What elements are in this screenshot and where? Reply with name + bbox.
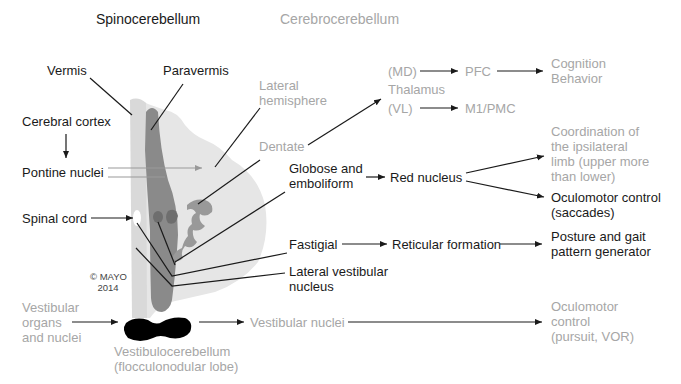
- label-line: (saccades): [551, 205, 661, 220]
- label-line: Cognition: [551, 56, 606, 71]
- label-line: control: [551, 314, 634, 329]
- label-line: Vestibular: [22, 300, 81, 315]
- copyright-line-2: 2014: [90, 282, 126, 293]
- label-posture-gait: Posture and gait pattern generator: [551, 229, 651, 259]
- label-spinal-cord: Spinal cord: [22, 211, 87, 226]
- vermis-shape: [130, 99, 147, 318]
- label-line: Vestibulocerebellum: [114, 344, 238, 359]
- header-spinocerebellum: Spinocerebellum: [96, 12, 200, 27]
- label-cerebral-cortex: Cerebral cortex: [22, 114, 111, 129]
- label-red-nucleus: Red nucleus: [390, 170, 462, 185]
- label-line: Oculomotor: [551, 299, 634, 314]
- label-vestibulocerebellum: Vestibulocerebellum (flocculonodular lob…: [114, 344, 238, 374]
- fastigial-nucleus-shape: [153, 211, 163, 223]
- label-paravermis: Paravermis: [163, 63, 229, 78]
- label-line: the ipsilateral: [551, 139, 649, 154]
- label-thalamus: Thalamus: [388, 82, 445, 97]
- label-vl: (VL): [388, 101, 413, 116]
- label-line: pattern generator: [551, 244, 651, 259]
- label-line: than lower): [551, 169, 649, 184]
- label-lateral-hemisphere: Lateral hemisphere: [259, 78, 327, 108]
- label-line: limb (upper more: [551, 154, 649, 169]
- label-coordination: Coordination of the ipsilateral limb (up…: [551, 124, 649, 184]
- label-oculomotor-saccades: Oculomotor control (saccades): [551, 190, 661, 220]
- label-line: (pursuit, VOR): [551, 329, 634, 344]
- label-line: Oculomotor control: [551, 190, 661, 205]
- label-dentate: Dentate: [259, 139, 305, 154]
- label-vestibular-nuclei: Vestibular nuclei: [250, 315, 345, 330]
- label-fastigial: Fastigial: [289, 237, 337, 252]
- label-pfc: PFC: [465, 64, 491, 79]
- label-pontine-nuclei: Pontine nuclei: [22, 165, 104, 180]
- label-oculomotor-pursuit: Oculomotor control (pursuit, VOR): [551, 299, 634, 344]
- label-line: Globose and: [289, 161, 363, 176]
- label-line: nucleus: [289, 279, 388, 294]
- copyright-notice: © MAYO 2014: [90, 271, 126, 293]
- cerebellum-diagram: Spinocerebellum Cerebrocerebellum Vermis…: [0, 0, 681, 384]
- label-line: Posture and gait: [551, 229, 651, 244]
- label-reticular-formation: Reticular formation: [392, 237, 501, 252]
- header-cerebrocerebellum: Cerebrocerebellum: [280, 12, 399, 27]
- label-line: Lateral: [259, 78, 327, 93]
- label-line: and nuclei: [22, 330, 81, 345]
- copyright-line-1: © MAYO: [90, 271, 126, 282]
- label-lateral-vestibular-nucleus: Lateral vestibular nucleus: [289, 264, 388, 294]
- label-vermis: Vermis: [47, 63, 87, 78]
- label-line: Lateral vestibular: [289, 264, 388, 279]
- label-line: (flocculonodular lobe): [114, 359, 238, 374]
- label-globose-emboliform: Globose and emboliform: [289, 161, 363, 191]
- flocculonodular-lobe-shape: [124, 318, 191, 342]
- label-cognition-behavior: Cognition Behavior: [551, 56, 606, 86]
- label-md: (MD): [388, 64, 417, 79]
- label-m1-pmc: M1/PMC: [465, 101, 516, 116]
- label-line: Coordination of: [551, 124, 649, 139]
- label-line: Behavior: [551, 71, 606, 86]
- label-line: emboliform: [289, 176, 363, 191]
- label-line: organs: [22, 315, 81, 330]
- label-vestibular-organs: Vestibular organs and nuclei: [22, 300, 81, 345]
- label-line: hemisphere: [259, 93, 327, 108]
